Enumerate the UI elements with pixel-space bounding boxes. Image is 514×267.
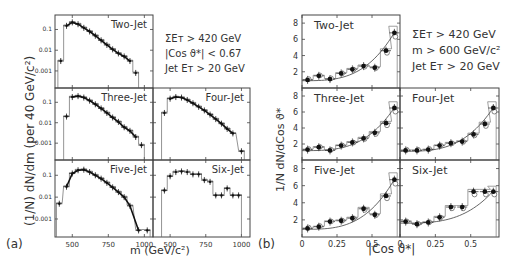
x-tick-label: 750 xyxy=(102,241,115,249)
x-tick-label: 1000 xyxy=(233,241,251,249)
panel-a-cut-2: |Cos ϑ*| < 0.67 xyxy=(165,48,241,60)
y-tick-label: 2 xyxy=(293,140,298,149)
panel-a-label: (a) xyxy=(6,237,23,251)
y-tick-label: 0.001 xyxy=(35,67,52,74)
y-tick-label: 6 xyxy=(293,108,298,117)
panel-title: Four-Jet xyxy=(205,92,244,103)
x-tick-label: 0.5 xyxy=(464,240,477,249)
panel-b-three-jet: 2468Three-Jet xyxy=(293,88,400,160)
panel-title: Two-Jet xyxy=(110,19,147,30)
y-tick-label: 6 xyxy=(293,182,298,191)
x-tick-label: 0 xyxy=(299,240,304,249)
panel-b-x-axis-label: |Cos ϑ*| xyxy=(368,242,415,256)
panel-b-four-jet: Four-Jet xyxy=(400,88,499,160)
y-tick-label: 4 xyxy=(293,52,298,61)
y-tick-label: 2 xyxy=(293,68,298,77)
panel-b-cut-3: Jet Eᴛ > 20 GeV xyxy=(411,60,500,73)
panel-a-x-axis-label: m (GeV/c²) xyxy=(130,244,190,257)
panel-b-cut-2: m > 600 GeV/c² xyxy=(412,44,500,57)
panel-title: Two-Jet xyxy=(313,19,354,32)
panel-title: Six-Jet xyxy=(212,164,244,175)
panel-title: Three-Jet xyxy=(313,92,365,105)
y-tick-label: 8 xyxy=(293,165,298,174)
panel-b-six-jet: 00.250.5Six-Jet xyxy=(397,160,499,249)
panel-title: Five-Jet xyxy=(314,164,355,177)
y-tick-label: 0.1 xyxy=(42,171,52,178)
panel-title: Three-Jet xyxy=(100,92,147,103)
x-tick-label: 500 xyxy=(66,241,79,249)
y-tick-label: 0.1 xyxy=(42,25,52,32)
y-tick-label: 4 xyxy=(293,124,298,133)
y-tick-label: 2 xyxy=(293,216,298,225)
y-tick-label: 0.1 xyxy=(42,98,52,105)
x-tick-label: 750 xyxy=(199,241,212,249)
y-tick-label: 0.001 xyxy=(35,215,52,222)
panel-a-four-jet: Four-Jet xyxy=(153,88,250,160)
panel-a-five-jet: 0.10.010.0015007501000Five-Jet xyxy=(35,160,153,249)
panel-b-y-axis-label: 1/N dN/dCos ϑ* xyxy=(274,107,287,192)
panel-title: Five-Jet xyxy=(110,164,147,175)
y-tick-label: 0.01 xyxy=(39,119,53,126)
panel-b-five-jet: 246800.250.5Five-Jet xyxy=(293,160,400,249)
y-tick-label: 4 xyxy=(293,199,298,208)
panel-b-cut-1: ΣEᴛ > 420 GeV xyxy=(412,28,496,41)
y-tick-label: 8 xyxy=(293,92,298,101)
y-tick-label: 8 xyxy=(293,19,298,28)
y-tick-label: 6 xyxy=(293,35,298,44)
panel-a-cut-1: ΣEᴛ > 420 GeV xyxy=(165,33,241,44)
x-tick-label: 0.25 xyxy=(426,240,444,249)
panel-b-label: (b) xyxy=(258,237,275,251)
panel-b-two-jet: 2468Two-Jet xyxy=(293,15,400,88)
panel-a-y-axis-label: (1/N) dN/dm (per 40 GeV/c²) xyxy=(23,56,37,226)
y-tick-label: 0.01 xyxy=(39,46,53,53)
panel-title: Four-Jet xyxy=(412,92,455,105)
x-tick-label: 0.25 xyxy=(328,240,346,249)
figure: 0.10.010.001Two-Jet0.10.010.001Three-Jet… xyxy=(0,0,514,267)
y-tick-label: 0.001 xyxy=(35,139,52,146)
panel-a-two-jet: 0.10.010.001Two-Jet xyxy=(35,15,153,88)
panel-title: Six-Jet xyxy=(412,164,448,177)
panel-a-cut-3: Jet Eᴛ > 20 GeV xyxy=(164,63,245,74)
panel-a-six-jet: 5007501000Six-Jet xyxy=(153,160,250,249)
y-tick-label: 0.01 xyxy=(39,193,53,200)
panel-a-three-jet: 0.10.010.001Three-Jet xyxy=(35,88,153,160)
